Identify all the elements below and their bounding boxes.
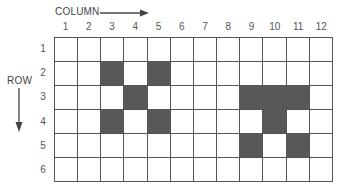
filled-cell: [148, 110, 171, 134]
empty-cell: [148, 38, 171, 62]
column-number: 5: [147, 21, 170, 32]
empty-cell: [240, 38, 263, 62]
column-number: 12: [310, 21, 333, 32]
empty-cell: [148, 158, 171, 182]
empty-cell: [78, 62, 101, 86]
empty-cell: [101, 86, 124, 110]
row-number: 6: [36, 164, 50, 175]
empty-cell: [171, 134, 194, 158]
empty-cell: [171, 62, 194, 86]
column-number: 1: [54, 21, 77, 32]
empty-cell: [124, 158, 147, 182]
empty-cell: [124, 134, 147, 158]
empty-cell: [171, 110, 194, 134]
filled-cell: [240, 134, 263, 158]
empty-cell: [194, 38, 217, 62]
empty-cell: [217, 134, 240, 158]
empty-cell: [55, 38, 78, 62]
arrow-down-icon: [14, 88, 24, 133]
empty-cell: [240, 62, 263, 86]
empty-cell: [171, 38, 194, 62]
empty-cell: [55, 134, 78, 158]
empty-cell: [310, 86, 333, 110]
filled-cell: [101, 62, 124, 86]
empty-cell: [78, 158, 101, 182]
column-number: 11: [287, 21, 310, 32]
empty-cell: [287, 158, 310, 182]
empty-cell: [217, 38, 240, 62]
empty-cell: [263, 38, 286, 62]
empty-cell: [55, 110, 78, 134]
empty-cell: [55, 158, 78, 182]
arrow-right-icon: [100, 8, 150, 18]
empty-cell: [194, 158, 217, 182]
column-number: 3: [101, 21, 124, 32]
row-axis-label: ROW: [7, 75, 32, 86]
filled-cell: [101, 110, 124, 134]
column-axis-label: COLUMN: [55, 6, 100, 17]
empty-cell: [101, 38, 124, 62]
row-number: 3: [36, 91, 50, 102]
row-number: 1: [36, 43, 50, 54]
empty-cell: [263, 62, 286, 86]
empty-cell: [217, 110, 240, 134]
empty-cell: [217, 158, 240, 182]
empty-cell: [78, 110, 101, 134]
empty-cell: [194, 62, 217, 86]
empty-cell: [78, 134, 101, 158]
row-number: 5: [36, 140, 50, 151]
empty-cell: [310, 62, 333, 86]
row-number: 4: [36, 116, 50, 127]
empty-cell: [148, 134, 171, 158]
empty-cell: [124, 38, 147, 62]
empty-cell: [101, 158, 124, 182]
filled-cell: [263, 110, 286, 134]
empty-cell: [310, 110, 333, 134]
empty-cell: [310, 158, 333, 182]
empty-cell: [171, 86, 194, 110]
column-number: 4: [124, 21, 147, 32]
empty-cell: [287, 38, 310, 62]
empty-cell: [240, 110, 263, 134]
column-number: 6: [170, 21, 193, 32]
column-number: 9: [240, 21, 263, 32]
filled-cell: [124, 86, 147, 110]
empty-cell: [101, 134, 124, 158]
empty-cell: [263, 158, 286, 182]
empty-cell: [124, 62, 147, 86]
empty-cell: [263, 134, 286, 158]
empty-cell: [194, 86, 217, 110]
row-number: 2: [36, 67, 50, 78]
empty-cell: [240, 158, 263, 182]
column-number: 7: [194, 21, 217, 32]
empty-cell: [55, 86, 78, 110]
column-number: 8: [217, 21, 240, 32]
column-number: 10: [263, 21, 286, 32]
filled-cell: [148, 62, 171, 86]
filled-cell: [263, 86, 286, 110]
empty-cell: [148, 86, 171, 110]
empty-cell: [217, 86, 240, 110]
cell-grid: [54, 37, 333, 182]
empty-cell: [217, 62, 240, 86]
empty-cell: [55, 62, 78, 86]
empty-cell: [78, 86, 101, 110]
empty-cell: [310, 134, 333, 158]
column-number: 2: [77, 21, 100, 32]
empty-cell: [287, 62, 310, 86]
empty-cell: [194, 134, 217, 158]
empty-cell: [287, 110, 310, 134]
empty-cell: [194, 110, 217, 134]
empty-cell: [171, 158, 194, 182]
filled-cell: [287, 86, 310, 110]
empty-cell: [124, 110, 147, 134]
empty-cell: [78, 38, 101, 62]
filled-cell: [287, 134, 310, 158]
filled-cell: [240, 86, 263, 110]
empty-cell: [310, 38, 333, 62]
